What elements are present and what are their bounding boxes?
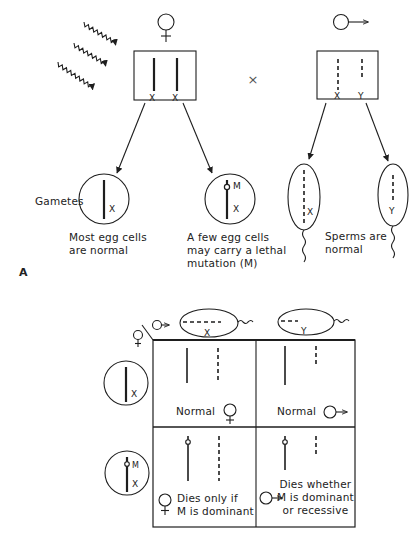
header-sperm-y [278, 309, 349, 335]
caption-line: are normal [69, 244, 147, 257]
cell-outcome-line: Dies only if [177, 492, 254, 505]
male-symbol-icon [153, 321, 170, 330]
caption-line: Sperms are [325, 230, 387, 243]
male-symbol-icon [324, 406, 347, 418]
mutation-label: M [233, 180, 241, 193]
chromosome-label: X [204, 327, 210, 340]
radiation-icon [56, 17, 118, 95]
caption-line: Most egg cells [69, 231, 147, 244]
cell-outcome-line: M is dominant [177, 505, 254, 518]
caption-line: A few egg cells [187, 231, 286, 244]
chromosome-label: X [307, 206, 313, 219]
row-header-egg-normal [104, 361, 148, 405]
caption-line: normal [325, 243, 387, 256]
female-parent-box [134, 51, 196, 100]
caption-line: mutation (M) [187, 257, 286, 270]
female-symbol-icon [224, 404, 236, 424]
female-symbol-icon [158, 14, 174, 42]
chromosome-label: Y [358, 90, 364, 103]
cell-outcome: Normal [277, 405, 316, 418]
caption-line: may carry a lethal [187, 244, 286, 257]
cell-outcome-line: Dies whether [277, 478, 354, 491]
male-symbol-icon [334, 15, 369, 30]
gametes-label: Gametes [35, 195, 84, 208]
cell-outcome: Dies only if M is dominant [177, 492, 254, 518]
chromosome-label: X [131, 388, 137, 401]
figure-part-label: A [19, 266, 28, 279]
sperm-caption: Sperms are normal [325, 230, 387, 256]
female-symbol-icon [134, 331, 143, 348]
header-sperm-x [180, 309, 253, 337]
cell-outcome: Normal [176, 405, 215, 418]
mutation-label: M [132, 459, 139, 472]
male-parent-box [317, 51, 378, 99]
female-symbol-icon [159, 494, 171, 515]
sperm-x [288, 164, 320, 262]
chromosome-label: Y [389, 205, 395, 218]
chromosome-label: X [172, 92, 178, 105]
cell-outcome-line: M is dominant [277, 491, 354, 504]
cell-outcome: Dies whether M is dominant or recessive [277, 478, 354, 517]
chromosome-label: X [109, 203, 115, 216]
chromosome-label: X [233, 203, 239, 216]
egg-normal-caption: Most egg cells are normal [69, 231, 147, 257]
cell-outcome-line: or recessive [277, 504, 354, 517]
egg-mutant-caption: A few egg cells may carry a lethal mutat… [187, 231, 286, 270]
chromosome-label: Y [301, 325, 307, 338]
chromosome-label: X [132, 478, 138, 491]
row-header-egg-mutant [105, 451, 149, 495]
cross-symbol: × [248, 72, 259, 87]
chromosome-label: X [334, 90, 340, 103]
egg-cell-normal [79, 174, 129, 224]
chromosome-label: X [149, 92, 155, 105]
egg-cell-mutant [205, 174, 255, 224]
